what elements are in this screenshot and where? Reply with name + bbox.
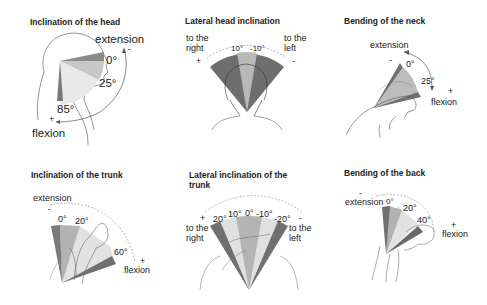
label-to-the-right-2: right xyxy=(186,233,204,243)
back-bending-diagram xyxy=(320,150,487,305)
label-minus: - xyxy=(389,55,392,65)
label-flexion: flexion xyxy=(124,265,150,275)
panel-inclination-of-the-head: Inclination of the head extension - 0° 2… xyxy=(0,0,160,150)
label-0-degrees: 0° xyxy=(386,197,394,207)
label-to-the-right-1: to the xyxy=(186,223,209,233)
label-extension: extension xyxy=(95,33,144,45)
label-40-degrees: 40° xyxy=(417,215,431,225)
label-0-degrees: 0° xyxy=(58,214,67,224)
label-plus: + xyxy=(196,56,201,66)
trunk-inclination-diagram xyxy=(0,150,165,305)
label-0-degrees: 0° xyxy=(406,59,415,69)
label-minus: - xyxy=(299,213,302,223)
label-extension: extension xyxy=(33,193,72,203)
label-60-degrees: 60° xyxy=(114,247,128,257)
panel-bending-of-the-back: Bending of the back - extension 0° 20° 4… xyxy=(320,150,487,305)
neck-bending-diagram xyxy=(320,0,487,150)
label-85-degrees: 85° xyxy=(57,103,74,115)
label-extension: extension xyxy=(370,40,409,50)
label-20-degrees: 20° xyxy=(75,216,89,226)
label-plus: + xyxy=(200,213,205,223)
panel-bending-of-the-neck: Bending of the neck extension - 0° 25° +… xyxy=(320,0,487,150)
label-to-the-left-2: left xyxy=(284,43,296,53)
label-minus: - xyxy=(48,204,51,214)
label-minus: - xyxy=(128,44,131,54)
label-to-the-right-1: to the xyxy=(186,33,209,43)
panel-inclination-of-the-trunk: Inclination of the trunk extension - 0° … xyxy=(0,150,165,305)
head-inclination-diagram xyxy=(0,0,160,150)
label-to-the-right-2: right xyxy=(186,43,204,53)
label-extension: extension xyxy=(345,197,384,207)
label-0-degrees: 0° xyxy=(245,208,254,218)
label-10-degrees: 10° xyxy=(228,209,242,219)
label-25-degrees: 25° xyxy=(99,77,116,89)
label-plus: + xyxy=(49,114,54,124)
label-minus-10-degrees: -10° xyxy=(256,209,273,219)
label-minus-10-degrees: -10° xyxy=(250,44,265,54)
label-to-the-left-2: left xyxy=(289,233,301,243)
label-flexion: flexion xyxy=(32,127,65,139)
label-10-degrees: 10° xyxy=(231,44,243,54)
label-plus: + xyxy=(448,86,453,96)
label-to-the-left-1: to the xyxy=(284,33,307,43)
label-20-degrees: 20° xyxy=(403,203,417,213)
label-25-degrees: 25° xyxy=(421,76,435,86)
panel-lateral-head-inclination: Lateral head inclination to the right + … xyxy=(160,0,325,150)
lateral-head-diagram xyxy=(160,0,325,150)
label-flexion: flexion xyxy=(442,229,468,239)
label-20-degrees: 20° xyxy=(213,214,227,224)
label-flexion: flexion xyxy=(431,97,457,107)
label-0-degrees: 0° xyxy=(106,54,117,66)
label-to-the-left-1: to the xyxy=(289,223,312,233)
panel-lateral-inclination-of-the-trunk: Lateral inclination of the trunk + to th… xyxy=(160,150,325,305)
label-minus: - xyxy=(292,56,295,66)
